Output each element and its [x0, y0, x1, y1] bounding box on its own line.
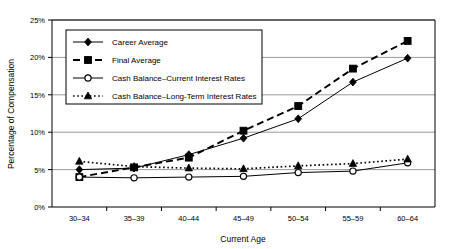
legend-entry-label: Final Average: [112, 56, 161, 65]
legend-entry-label: Cash Balance–Long-Term Interest Rates: [112, 92, 257, 101]
percentage-of-compensation-line-chart: 0%5%10%15%20%25% 30–3435–3940–4445–4950–…: [0, 0, 451, 249]
x-axis-tick-label: 55–59: [342, 214, 363, 223]
legend-entry-label: Cash Balance–Current Interest Rates: [112, 74, 245, 83]
x-axis-tick-label: 40–44: [178, 214, 199, 223]
y-axis-tick-label: 15%: [30, 91, 45, 100]
series-marker: [240, 173, 246, 179]
y-axis-tick-label: 10%: [30, 128, 45, 137]
x-axis-tick-label: 30–34: [69, 214, 90, 223]
legend-entry-label: Career Average: [112, 38, 168, 47]
x-axis-tick-label: 45–49: [233, 214, 254, 223]
chart-figure: 0%5%10%15%20%25% 30–3435–3940–4445–4950–…: [0, 0, 451, 249]
x-axis-tick-label: 35–39: [124, 214, 145, 223]
x-axis-title: Current Age: [220, 234, 266, 244]
legend-marker-sample: [85, 57, 92, 64]
y-axis-title: Percentage of Compensation: [6, 59, 16, 169]
series-marker: [350, 65, 357, 72]
series-marker: [295, 169, 301, 175]
x-axis-tick-label: 50–54: [288, 214, 309, 223]
series-marker: [404, 38, 411, 45]
series-marker: [350, 168, 356, 174]
x-axis-tick-label: 60–64: [397, 214, 418, 223]
series-marker: [240, 127, 247, 134]
y-axis-tick-label: 5%: [34, 166, 45, 175]
series-marker: [186, 174, 192, 180]
chart-legend: Career AverageFinal AverageCash Balance–…: [66, 30, 262, 104]
series-marker: [76, 174, 82, 180]
legend-marker-sample: [85, 75, 91, 81]
series-marker: [131, 175, 137, 181]
series-marker: [185, 154, 192, 161]
y-axis-tick-label: 20%: [30, 53, 45, 62]
series-marker: [295, 103, 302, 110]
y-axis-tick-label: 25%: [30, 16, 45, 25]
y-axis-tick-label: 0%: [34, 203, 45, 212]
